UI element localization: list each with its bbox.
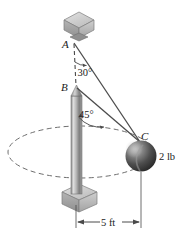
dimension-label-5ft: 5 ft xyxy=(101,217,115,228)
cord-a-c xyxy=(74,43,140,142)
diagram-svg: 30° 45° A B C 2 lb 5 ft xyxy=(0,0,188,238)
angle-label-30: 30° xyxy=(78,67,93,78)
weight-label: 2 lb xyxy=(159,151,175,162)
vertical-pole xyxy=(71,85,82,194)
point-label-c: C xyxy=(141,130,149,142)
top-support-block xyxy=(64,12,94,41)
point-label-a: A xyxy=(61,38,69,50)
point-label-b: B xyxy=(61,81,68,93)
figure-canvas: 30° 45° A B C 2 lb 5 ft xyxy=(0,0,188,238)
angle-label-45: 45° xyxy=(79,109,94,120)
ball-c xyxy=(125,140,157,172)
axis-dashed-line xyxy=(74,44,76,86)
